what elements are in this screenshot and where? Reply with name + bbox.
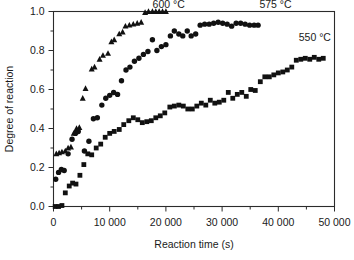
data-point [103, 135, 108, 140]
data-point [120, 29, 126, 35]
data-point [167, 105, 172, 110]
data-point [203, 103, 208, 108]
data-point [215, 20, 220, 25]
data-point [255, 22, 260, 27]
data-point [303, 56, 308, 61]
x-tick-label: 50 000 [318, 216, 350, 228]
data-point [153, 115, 158, 120]
data-point [220, 21, 225, 26]
data-point [78, 173, 83, 178]
data-point [208, 98, 213, 103]
series-label-600-c: 600 °C [153, 0, 186, 10]
y-axis-title: Degree of reaction [3, 66, 15, 153]
data-point [206, 21, 211, 26]
data-point [212, 101, 217, 106]
data-point [94, 146, 99, 151]
data-point [69, 137, 74, 142]
data-point [238, 21, 243, 26]
y-tick-label: 0.4 [30, 122, 45, 134]
data-point [149, 118, 154, 123]
data-point [194, 104, 199, 109]
data-point [199, 101, 204, 106]
data-point [65, 151, 70, 156]
data-point [294, 58, 299, 63]
data-point [60, 203, 65, 208]
data-point [217, 100, 222, 105]
data-point [140, 120, 145, 125]
y-tick-label: 0.0 [30, 200, 45, 212]
data-point [253, 88, 258, 93]
data-point [172, 104, 177, 109]
data-point [115, 92, 120, 97]
data-point [163, 42, 168, 47]
data-point [298, 57, 303, 62]
data-point [211, 21, 216, 26]
data-point [221, 98, 226, 103]
data-point [144, 119, 149, 124]
data-point [136, 56, 141, 61]
data-series-575-c [53, 20, 261, 182]
x-axis-ticks [54, 207, 335, 212]
data-point [74, 182, 79, 187]
data-point [131, 115, 136, 120]
data-point [193, 31, 198, 36]
data-point [111, 37, 117, 43]
data-point [172, 28, 177, 33]
y-tick-label: 0.2 [30, 161, 45, 173]
series-label-550-c: 550 °C [299, 31, 332, 43]
data-point [197, 22, 202, 27]
data-point [244, 94, 249, 99]
data-point [150, 37, 155, 42]
data-point [276, 71, 281, 76]
data-point [271, 72, 276, 77]
data-point [141, 52, 146, 57]
data-point [229, 23, 234, 28]
data-point [121, 122, 126, 127]
data-point [185, 107, 190, 112]
x-tick-label: 30 000 [206, 216, 238, 228]
data-point [168, 33, 173, 38]
data-point [280, 70, 285, 75]
data-point [61, 168, 66, 173]
data-point [181, 104, 186, 109]
data-point [81, 162, 86, 167]
data-point [235, 92, 240, 97]
y-tick-label: 0.6 [30, 83, 45, 95]
y-tick-label: 0.8 [30, 44, 45, 56]
y-tick-label: 1.0 [30, 5, 45, 17]
data-point [154, 48, 159, 53]
data-point [53, 177, 58, 182]
data-point [105, 50, 111, 56]
data-point [226, 90, 231, 95]
x-tick-label: 10 000 [94, 216, 126, 228]
data-point [92, 64, 98, 70]
data-point [307, 57, 312, 62]
data-point [99, 102, 104, 107]
y-axis-ticks [49, 12, 54, 207]
series-label-575-c: 575 °C [259, 0, 292, 10]
data-point [316, 57, 321, 62]
data-point [138, 19, 144, 25]
data-point [145, 49, 150, 54]
data-point [119, 78, 124, 83]
data-point [95, 115, 100, 120]
data-point [135, 117, 140, 122]
data-point [86, 138, 91, 143]
x-axis-tick-labels: 010 00020 00030 00040 00050 000 [51, 216, 351, 228]
data-point [262, 74, 267, 79]
data-point [285, 68, 290, 73]
data-point [242, 21, 247, 26]
data-point [321, 56, 326, 61]
data-point [132, 59, 137, 64]
data-point [127, 64, 132, 69]
data-point [158, 113, 163, 118]
data-point [185, 28, 190, 33]
data-point [248, 87, 253, 92]
x-axis-title: Reaction time (s) [154, 238, 233, 250]
reaction-kinetics-scatter-plot: 010 00020 00030 00040 00050 000 0.00.20.… [0, 0, 354, 260]
x-tick-label: 40 000 [262, 216, 294, 228]
data-point [126, 118, 131, 123]
data-point [258, 79, 263, 84]
data-point [100, 52, 106, 58]
data-point [80, 95, 86, 101]
